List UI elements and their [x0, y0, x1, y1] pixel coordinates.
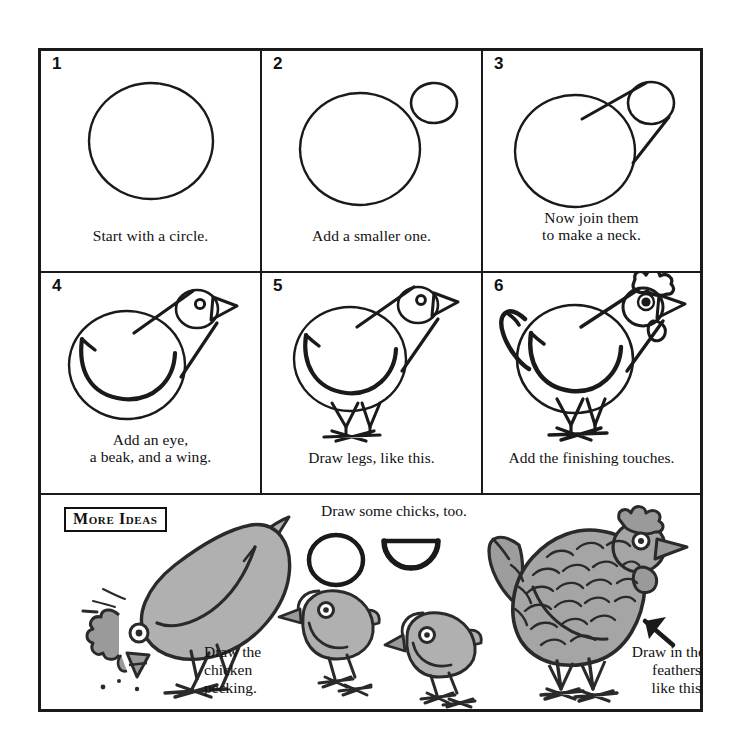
step-caption-4: Add an eye, a beak, and a wing. [41, 431, 260, 466]
step-caption-1: Start with a circle. [41, 227, 260, 244]
step-art-2 [262, 61, 481, 216]
chick-starter-shapes [309, 535, 438, 585]
step-panel-6: 6 [483, 273, 700, 493]
step-caption-3: Now join them to make a neck. [483, 209, 700, 244]
step-art-6 [483, 273, 700, 445]
more-ideas-panel: More Ideas Draw some chicks, too. Draw t… [41, 495, 700, 709]
steps-grid: 1 Start with a circle. 2 [41, 51, 700, 493]
worksheet-frame: 1 Start with a circle. 2 [38, 48, 703, 712]
step-art-5 [262, 275, 481, 443]
chick-right-drawing [385, 613, 481, 707]
step-art-1 [41, 61, 260, 216]
step-panel-3: 3 Now join them to make a neck. [483, 51, 700, 271]
chicks-label: Draw some chicks, too. [284, 502, 504, 520]
step-panel-4: 4 Add an eye, a beak, and a [41, 273, 260, 493]
pecking-label: Draw the chicken pecking. [204, 643, 314, 696]
step-art-3 [483, 61, 700, 216]
step-caption-6: Add the finishing touches. [483, 449, 700, 466]
step-art-4 [41, 277, 260, 427]
worksheet-sheet: 1 Start with a circle. 2 [0, 0, 739, 731]
step-panel-2: 2 Add a smaller one. [262, 51, 481, 271]
step-caption-5: Draw legs, like this. [262, 449, 481, 466]
step-panel-1: 1 Start with a circle. [41, 51, 260, 271]
more-ideas-badge: More Ideas [64, 507, 167, 532]
feathers-label: Draw in the feathers, like this. [601, 643, 700, 696]
pointer-arrow [645, 617, 673, 645]
step-panel-5: 5 [262, 273, 481, 493]
step-caption-2: Add a smaller one. [262, 227, 481, 244]
